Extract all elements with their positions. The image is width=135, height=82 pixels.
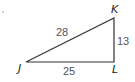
triangle-diagram: K J L 28 13 25 [0, 0, 135, 82]
vertex-label-j: J [16, 62, 21, 75]
vertex-label-k: K [111, 3, 119, 16]
triangle-jkl [26, 18, 114, 62]
vertex-label-l: L [112, 63, 118, 76]
side-label-jl: 25 [63, 65, 75, 77]
side-label-kl: 13 [117, 35, 129, 47]
stray-dot [2, 11, 4, 13]
side-label-jk: 28 [56, 26, 68, 38]
